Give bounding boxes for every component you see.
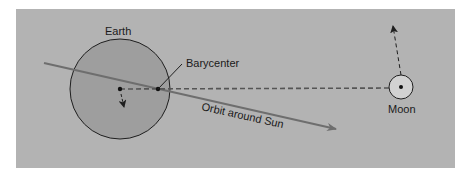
moon-label: Moon xyxy=(388,103,416,115)
earth-label: Earth xyxy=(105,25,131,37)
barycenter-label: Barycenter xyxy=(186,57,240,69)
barycenter-diagram: Earth Barycenter Orbit around Sun Moon xyxy=(0,0,467,178)
earth-center-dot xyxy=(118,87,122,91)
moon-center-dot xyxy=(399,85,403,89)
